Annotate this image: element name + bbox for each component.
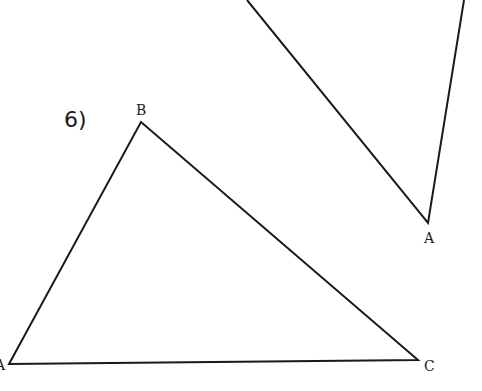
vertex-b-label: B [136, 102, 146, 118]
vertex-c-label: C [424, 358, 435, 374]
triangle-abc: B A C [0, 102, 435, 374]
upper-vertex-a-label: A [423, 230, 435, 246]
problem-number: 6) [64, 107, 87, 132]
upper-triangle: A [247, 0, 464, 246]
vertex-a-label: A [0, 357, 6, 373]
triangle-abc-edges [9, 122, 418, 364]
diagram-canvas: A 6) B A C [0, 0, 482, 391]
upper-triangle-edges [247, 0, 464, 223]
